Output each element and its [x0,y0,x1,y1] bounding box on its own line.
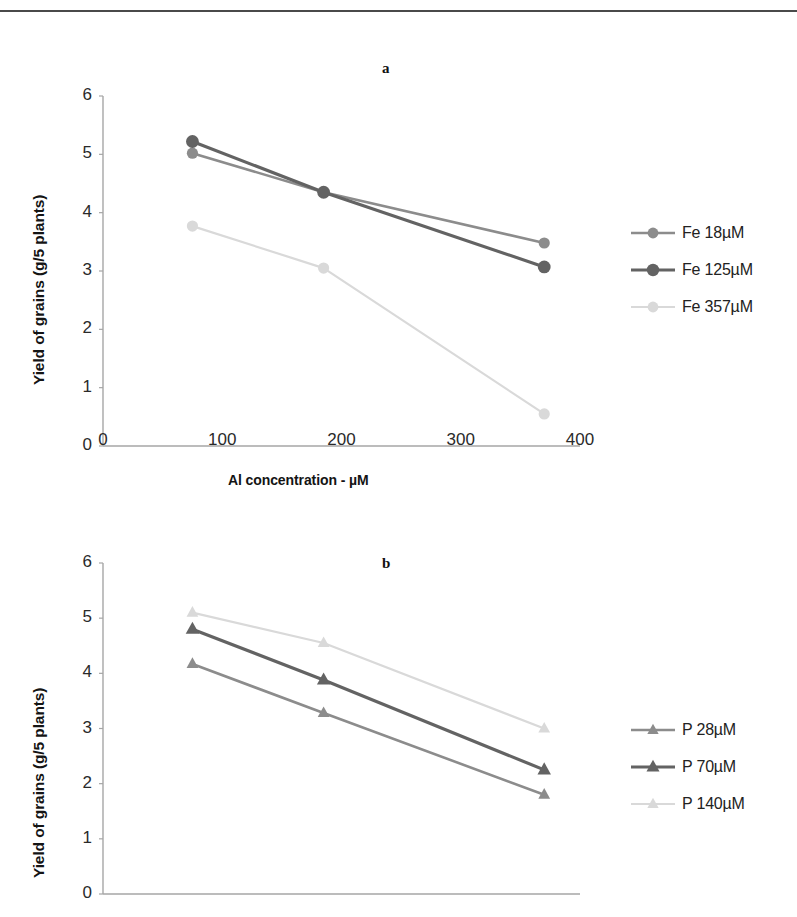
y-tick-label: 5 [62,607,92,627]
y-tick-label: 1 [62,377,92,397]
legend-label: P 28µM [682,721,736,739]
y-tick-label: 3 [62,260,92,280]
series-line-3 [192,613,544,729]
legend-item[interactable]: Fe 357µM [630,297,753,317]
panel-label-a: a [382,60,390,77]
legend-marker-circle-icon [630,224,676,242]
line-chart-b [0,520,797,917]
panel-label-b: b [382,555,390,572]
data-point-marker [538,261,551,274]
legend-label: Fe 357µM [682,298,753,316]
legend-label: P 70µM [682,758,736,776]
legend-label: Fe 18µM [682,224,744,242]
legend-label: Fe 125µM [682,261,753,279]
y-tick-label: 0 [62,883,92,903]
series-line-2 [192,629,544,770]
legend-marker-triangle-icon [630,795,676,813]
legend-marker-triangle-icon [630,758,676,776]
y-axis-title-a: Yield of grains (g/5 plants) [30,195,48,385]
data-point-marker [647,798,658,808]
x-tick-label: 0 [73,430,133,450]
data-point-marker [317,186,330,199]
data-point-marker [539,237,550,248]
legend-a: Fe 18µMFe 125µMFe 357µM [630,223,753,317]
data-point-marker [187,220,198,231]
plot-area-b [0,520,797,917]
y-tick-label: 2 [62,773,92,793]
data-point-marker [318,262,329,273]
data-point-marker [187,148,198,159]
data-point-marker [186,135,199,148]
chart-panel-b: b Yield of grains (g/5 plants) 6543210 P… [0,520,797,917]
data-point-marker [648,302,659,313]
data-point-marker [539,408,550,419]
data-point-marker [187,657,199,668]
y-tick-label: 6 [62,552,92,572]
data-point-marker [647,264,659,276]
legend-item[interactable]: P 28µM [630,720,745,740]
data-point-marker [648,228,659,239]
series-line-1 [192,153,544,243]
y-axis-title-b: Yield of grains (g/5 plants) [30,688,48,878]
data-point-marker [187,606,199,617]
legend-item[interactable]: Fe 18µM [630,223,753,243]
chart-panel-a: a Yield of grains (g/5 plants) Al concen… [0,30,797,500]
legend-b: P 28µMP 70µMP 140µM [630,720,745,814]
legend-marker-triangle-icon [630,721,676,739]
legend-item[interactable]: Fe 125µM [630,260,753,280]
data-point-marker [186,622,199,634]
y-tick-label: 1 [62,828,92,848]
y-tick-label: 3 [62,718,92,738]
x-tick-label: 400 [550,430,610,450]
x-tick-label: 200 [312,430,372,450]
legend-item[interactable]: P 140µM [630,794,745,814]
x-tick-label: 300 [431,430,491,450]
x-axis-title-a: Al concentration - µM [228,472,369,488]
legend-label: P 140µM [682,795,745,813]
y-tick-label: 6 [62,85,92,105]
y-tick-label: 2 [62,318,92,338]
legend-marker-circle-icon [630,298,676,316]
figure-page: a Yield of grains (g/5 plants) Al concen… [0,0,797,917]
x-tick-label: 100 [192,430,252,450]
series-line-1 [192,664,544,795]
series-line-3 [192,226,544,414]
series-line-2 [192,142,544,267]
y-tick-label: 5 [62,143,92,163]
page-top-rule [0,10,797,12]
legend-marker-circle-icon [630,261,676,279]
y-tick-label: 4 [62,662,92,682]
legend-item[interactable]: P 70µM [630,757,745,777]
y-tick-label: 4 [62,202,92,222]
